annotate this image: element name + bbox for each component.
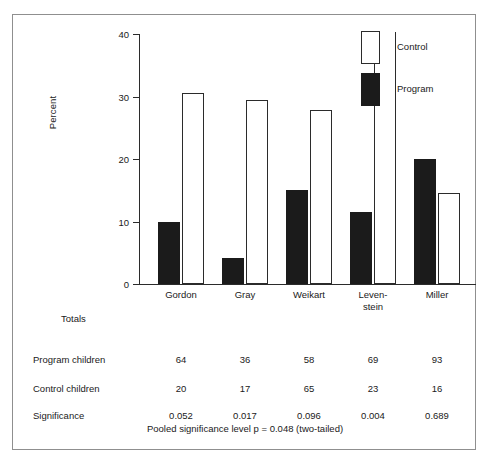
legend-label: Program (397, 83, 433, 94)
y-tick-label: 20 (103, 154, 129, 165)
y-tick-label: 30 (103, 92, 129, 103)
pooled-significance-note: Pooled significance level p = 0.048 (two… (13, 423, 477, 434)
x-axis-line (139, 284, 476, 285)
legend-swatch-program (361, 73, 380, 106)
statistics-table: Totals Program children6436586993Control… (13, 291, 477, 450)
y-tick-label: 10 (103, 217, 129, 228)
figure-frame: Percent 010203040 GordonGrayWeikartLeven… (12, 14, 476, 450)
table-cell: 58 (279, 354, 339, 365)
table-row-label: Significance (33, 410, 84, 421)
table-row-label: Program children (33, 354, 105, 365)
bar-control-levenstein (374, 32, 396, 284)
bar-program-gray (222, 258, 244, 284)
table-cell: 93 (407, 354, 467, 365)
bar-control-gray (246, 100, 268, 284)
y-tick-mark (133, 159, 139, 160)
table-cell: 16 (407, 383, 467, 394)
table-cell: 69 (343, 354, 403, 365)
table-cell: 0.096 (279, 410, 339, 421)
table-cell: 17 (215, 383, 275, 394)
y-tick-mark (133, 34, 139, 35)
bar-control-gordon (182, 93, 204, 284)
y-axis-label: Percent (47, 68, 58, 158)
legend-label: Control (397, 41, 428, 52)
table-cell: 0.052 (151, 410, 211, 421)
totals-header-label: Totals (61, 313, 86, 324)
bar-control-weikart (310, 110, 332, 284)
table-cell: 20 (151, 383, 211, 394)
y-tick-mark (133, 222, 139, 223)
bar-program-gordon (158, 222, 180, 285)
table-row-label: Control children (33, 383, 100, 394)
table-cell: 0.004 (343, 410, 403, 421)
table-cell: 36 (215, 354, 275, 365)
table-cell: 0.017 (215, 410, 275, 421)
y-tick-label: 0 (103, 279, 129, 290)
bar-program-levenstein (350, 212, 372, 284)
table-cell: 65 (279, 383, 339, 394)
table-cell: 64 (151, 354, 211, 365)
y-tick-mark (133, 97, 139, 98)
bar-control-miller (438, 193, 460, 284)
legend-swatch-control (361, 31, 380, 64)
y-tick-mark (133, 284, 139, 285)
y-axis-line (139, 34, 140, 285)
bar-program-miller (414, 159, 436, 284)
bar-program-weikart (286, 190, 308, 284)
bar-chart-plot: Percent 010203040 GordonGrayWeikartLeven… (13, 15, 477, 291)
y-tick-label: 40 (103, 29, 129, 40)
table-cell: 23 (343, 383, 403, 394)
table-cell: 0.689 (407, 410, 467, 421)
